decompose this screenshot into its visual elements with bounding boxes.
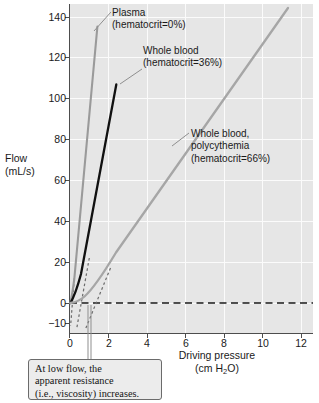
leader-line-whole-blood xyxy=(120,69,142,84)
callout-box: At low flow, the apparent resistance (i.… xyxy=(28,359,162,400)
annotation-plasma-line2: (hematocrit=0%) xyxy=(112,19,222,31)
annotation-polycythemia-line3: (hematocrit=66%) xyxy=(191,153,315,165)
annotation-whole-blood-line2: (hematocrit=36%) xyxy=(143,57,268,69)
annotation-plasma-line1: Plasma xyxy=(112,7,222,19)
polycythemia-extrapolation xyxy=(86,268,111,328)
callout-line1: At low flow, the xyxy=(35,363,156,375)
annotation-polycythemia-line1: Whole blood, xyxy=(191,128,315,140)
leader-line-plasma xyxy=(94,12,111,31)
callout-line2: apparent resistance xyxy=(35,375,156,387)
annotation-whole-blood: Whole blood (hematocrit=36%) xyxy=(143,45,268,70)
flow-vs-driving-pressure-chart: 140 120 100 80 60 40 20 0 −10 0 2 4 6 8 … xyxy=(0,0,319,403)
annotation-plasma: Plasma (hematocrit=0%) xyxy=(112,7,222,32)
annotation-whole-blood-line1: Whole blood xyxy=(143,45,268,57)
leader-line-polycythemia xyxy=(172,133,189,146)
callout-line3: (i.e., viscosity) increases. xyxy=(35,388,156,400)
annotation-polycythemia-line2: polycythemia xyxy=(191,140,315,152)
leader-line-callout xyxy=(88,305,91,359)
annotation-polycythemia: Whole blood, polycythemia (hematocrit=66… xyxy=(191,128,315,165)
